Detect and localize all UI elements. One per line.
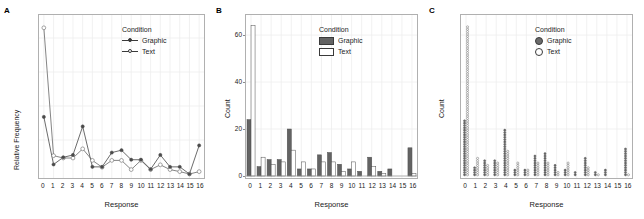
panel-c-x-axis-label: Response xyxy=(460,200,633,209)
panel-b-y-axis-label: Count xyxy=(224,99,231,118)
x-tick-3: 3 xyxy=(67,182,77,189)
panel-a-legend-label-graphic: Graphic xyxy=(142,37,167,44)
panel-b-x-tick-labels: 012345678910111213141516 xyxy=(245,182,418,189)
x-tick-14: 14 xyxy=(387,182,397,189)
x-tick-8: 8 xyxy=(326,182,336,189)
panel-a-legend[interactable]: Condition Graphic Text xyxy=(122,26,167,57)
panel-a-legend-item-graphic[interactable]: Graphic xyxy=(122,35,167,46)
panel-a-x-tick-labels: 012345678910111213141516 xyxy=(38,182,205,189)
panel-c-legend-label-graphic: Graphic xyxy=(547,37,572,44)
x-tick-6: 6 xyxy=(306,182,316,189)
open-circle-icon xyxy=(535,48,543,56)
x-tick-10: 10 xyxy=(562,182,572,189)
x-tick-15: 15 xyxy=(185,182,195,189)
x-tick-3: 3 xyxy=(276,182,286,189)
x-tick-9: 9 xyxy=(552,182,562,189)
x-tick-4: 4 xyxy=(286,182,296,189)
panel-c-legend-item-text[interactable]: Text xyxy=(535,46,572,57)
panel-b-legend-item-text[interactable]: Text xyxy=(319,46,363,57)
three-panel-figure: A Relative Frequency 0123456789101112131… xyxy=(0,0,644,219)
open-swatch-icon xyxy=(319,48,334,56)
panel-b-legend-title: Condition xyxy=(319,26,363,33)
panel-a-legend-item-text[interactable]: Text xyxy=(122,46,167,57)
panel-c-letter: C xyxy=(429,6,435,15)
x-tick-13: 13 xyxy=(592,182,602,189)
x-tick-14: 14 xyxy=(175,182,185,189)
panel-a-legend-label-text: Text xyxy=(142,48,155,55)
x-tick-7: 7 xyxy=(107,182,117,189)
x-tick-2: 2 xyxy=(480,182,490,189)
panel-c-legend-item-graphic[interactable]: Graphic xyxy=(535,35,572,46)
panel-b-legend-label-text: Text xyxy=(338,48,351,55)
x-tick-1: 1 xyxy=(255,182,265,189)
x-tick-15: 15 xyxy=(398,182,408,189)
panel-b-y-tick-60: 60 xyxy=(220,31,242,38)
x-tick-7: 7 xyxy=(316,182,326,189)
x-tick-9: 9 xyxy=(126,182,136,189)
panel-c-x-tick-labels: 012345678910111213141516 xyxy=(460,182,633,189)
x-tick-5: 5 xyxy=(87,182,97,189)
x-tick-2: 2 xyxy=(265,182,275,189)
x-tick-0: 0 xyxy=(245,182,255,189)
x-tick-0: 0 xyxy=(460,182,470,189)
x-tick-16: 16 xyxy=(408,182,418,189)
x-tick-4: 4 xyxy=(501,182,511,189)
panel-b-y-tick-0: 0 xyxy=(220,172,242,179)
x-tick-0: 0 xyxy=(38,182,48,189)
x-tick-3: 3 xyxy=(491,182,501,189)
line-filled-circle-icon xyxy=(122,36,138,45)
panel-c-legend-label-text: Text xyxy=(547,48,560,55)
x-tick-12: 12 xyxy=(156,182,166,189)
x-tick-2: 2 xyxy=(58,182,68,189)
x-tick-13: 13 xyxy=(166,182,176,189)
panel-b-legend[interactable]: Condition Graphic Text xyxy=(319,26,363,57)
panel-a: A Relative Frequency 0123456789101112131… xyxy=(0,0,212,219)
x-tick-12: 12 xyxy=(367,182,377,189)
x-tick-11: 11 xyxy=(357,182,367,189)
panel-b: B Count 0204060 012345678910111213141516… xyxy=(212,0,425,219)
panel-c-y-axis-label: Count xyxy=(438,99,445,118)
panel-a-x-axis-label: Response xyxy=(38,200,205,209)
x-tick-1: 1 xyxy=(470,182,480,189)
x-tick-8: 8 xyxy=(117,182,127,189)
x-tick-4: 4 xyxy=(77,182,87,189)
x-tick-10: 10 xyxy=(136,182,146,189)
x-tick-5: 5 xyxy=(296,182,306,189)
panel-b-letter: B xyxy=(216,6,222,15)
x-tick-9: 9 xyxy=(337,182,347,189)
x-tick-6: 6 xyxy=(521,182,531,189)
x-tick-11: 11 xyxy=(572,182,582,189)
line-open-circle-icon xyxy=(122,47,138,56)
x-tick-16: 16 xyxy=(195,182,205,189)
x-tick-12: 12 xyxy=(582,182,592,189)
x-tick-6: 6 xyxy=(97,182,107,189)
x-tick-10: 10 xyxy=(347,182,357,189)
panel-c: C Count 012345678910111213141516 Respons… xyxy=(425,0,644,219)
panel-b-legend-label-graphic: Graphic xyxy=(338,37,363,44)
panel-a-letter: A xyxy=(4,6,10,15)
x-tick-14: 14 xyxy=(602,182,612,189)
panel-c-legend-title: Condition xyxy=(535,26,572,33)
x-tick-8: 8 xyxy=(541,182,551,189)
filled-circle-icon xyxy=(535,37,543,45)
x-tick-13: 13 xyxy=(377,182,387,189)
x-tick-5: 5 xyxy=(511,182,521,189)
x-tick-1: 1 xyxy=(48,182,58,189)
panel-b-y-tick-40: 40 xyxy=(220,78,242,85)
x-tick-15: 15 xyxy=(613,182,623,189)
filled-swatch-icon xyxy=(319,37,334,45)
panel-b-legend-item-graphic[interactable]: Graphic xyxy=(319,35,363,46)
panel-b-y-tick-20: 20 xyxy=(220,125,242,132)
panel-b-x-axis-label: Response xyxy=(245,200,418,209)
panel-a-legend-title: Condition xyxy=(122,26,167,33)
panel-a-y-axis-label: Relative Frequency xyxy=(13,110,20,170)
panel-c-legend[interactable]: Condition Graphic Text xyxy=(535,26,572,57)
x-tick-16: 16 xyxy=(623,182,633,189)
x-tick-7: 7 xyxy=(531,182,541,189)
x-tick-11: 11 xyxy=(146,182,156,189)
